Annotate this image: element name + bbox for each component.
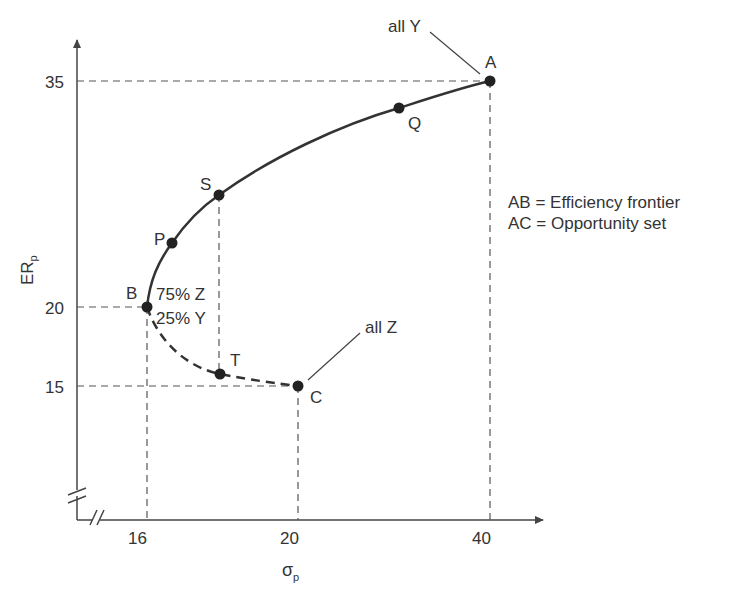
plot-svg [0,0,735,603]
x-axis-title-sub: p [293,571,299,583]
point-a [485,76,496,87]
annotation-all-y: all Y [388,18,421,35]
label-c: C [310,389,322,406]
y-axis-title: ERp [18,255,39,285]
data-points [142,76,496,392]
x-tick-20: 20 [280,530,299,547]
x-tick-16: 16 [128,530,147,547]
chart-area: 35 20 15 16 20 40 ERp σp A Q S P B T C a… [0,0,735,603]
y-axis-title-main: ER [18,261,37,285]
x-axis-title-main: σ [282,560,293,580]
point-t [215,369,226,380]
point-q [394,103,405,114]
x-tick-40: 40 [472,530,491,547]
axis-break-marks [68,488,104,527]
label-b: B [126,285,137,302]
guide-lines [77,81,490,520]
annotation-75-z: 75% Z [156,286,205,303]
y-tick-35: 35 [45,74,64,91]
y-tick-20: 20 [45,300,64,317]
point-c [293,381,304,392]
label-q: Q [408,115,421,132]
label-a: A [485,54,496,71]
label-p: P [154,231,165,248]
point-b [142,302,153,313]
legend-item-ac: AC = Opportunity set [508,213,680,234]
point-s [214,190,225,201]
annotation-all-z: all Z [365,319,397,336]
point-p [167,238,178,249]
y-tick-15: 15 [45,379,64,396]
legend-item-ab: AB = Efficiency frontier [508,192,680,213]
legend: AB = Efficiency frontier AC = Opportunit… [508,192,680,234]
y-axis-title-sub: p [27,255,39,261]
label-t: T [230,352,240,369]
x-axis-title: σp [282,560,299,583]
annotation-25-y: 25% Y [156,310,206,327]
efficiency-frontier-curve [147,81,490,307]
label-s: S [200,176,211,193]
